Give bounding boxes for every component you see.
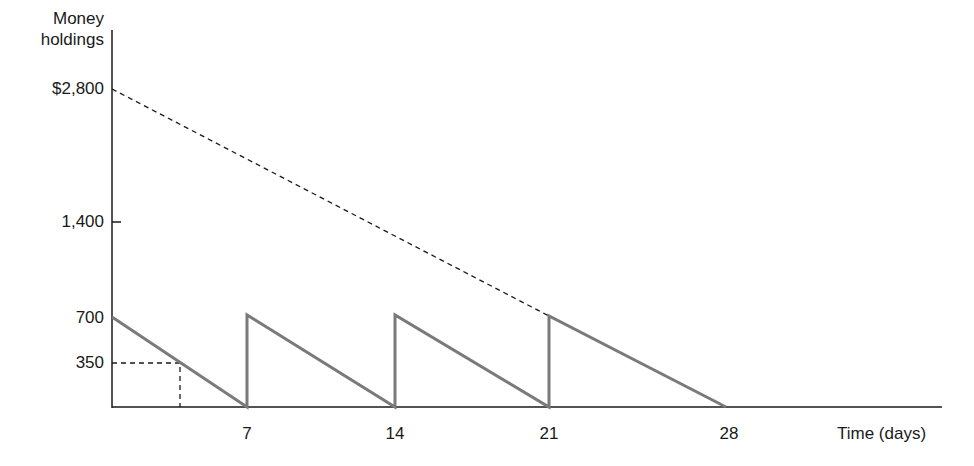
y-tick-label-2800: $2,800	[0, 79, 104, 99]
x-tick-label-14: 14	[386, 424, 405, 444]
sawtooth-series	[112, 315, 726, 407]
x-tick-label-21: 21	[540, 424, 559, 444]
y-axis-label-line1: Money	[0, 9, 104, 29]
x-tick-label-7: 7	[242, 424, 251, 444]
chart-plot	[0, 0, 974, 466]
x-tick-label-28: 28	[720, 424, 739, 444]
y-tick-label-350: 350	[0, 353, 104, 373]
average-guide	[112, 363, 180, 407]
y-tick-label-1400: 1,400	[0, 212, 104, 232]
y-axis-label-line2: holdings	[0, 30, 104, 50]
dashed-holdings-line	[112, 89, 549, 316]
y-tick-label-700: 700	[0, 308, 104, 328]
x-axis-label: Time (days)	[837, 424, 926, 444]
